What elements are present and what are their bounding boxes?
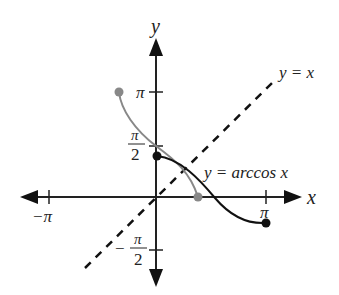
neg-pi-label: −π bbox=[32, 207, 52, 226]
neg-half-pi-label: − π 2 bbox=[115, 231, 147, 269]
arrow-right-icon bbox=[284, 190, 302, 204]
y-axis-label: y bbox=[149, 15, 160, 38]
identity-line-label: y = x bbox=[277, 63, 315, 82]
arrow-left-icon bbox=[20, 190, 38, 204]
y-axis bbox=[149, 38, 163, 287]
svg-text:−: − bbox=[115, 239, 125, 258]
svg-text:2: 2 bbox=[131, 145, 140, 164]
svg-text:2: 2 bbox=[134, 250, 143, 269]
pi-x-label: π bbox=[260, 203, 269, 222]
arccos-end-point bbox=[194, 193, 203, 202]
cos-start-point bbox=[153, 152, 162, 161]
svg-text:π: π bbox=[131, 127, 139, 143]
graph: y x −π π π π 2 − π 2 y = x y = arccos x bbox=[0, 0, 339, 295]
arrow-up-icon bbox=[149, 38, 163, 56]
x-axis-label: x bbox=[306, 186, 316, 208]
pi-y-label: π bbox=[136, 83, 145, 102]
arrow-down-icon bbox=[149, 269, 163, 287]
arccos-start-point bbox=[115, 88, 124, 97]
curve-label: y = arccos x bbox=[202, 163, 288, 182]
svg-text:π: π bbox=[134, 231, 142, 247]
half-pi-label: π 2 bbox=[128, 127, 145, 164]
